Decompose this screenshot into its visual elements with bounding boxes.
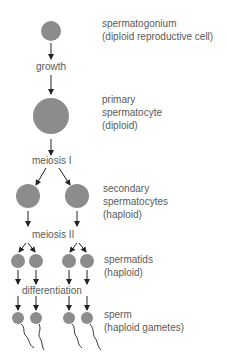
stage-primary-spermatocyte-label: primary spermatocyte (diploid) (102, 93, 162, 132)
arrow-meiosis1-right (59, 168, 70, 185)
arrow-meiosis1-left (36, 168, 46, 185)
process-meiosis-ii: meiosis II (32, 229, 74, 241)
spermatid-cell-4 (80, 254, 94, 268)
stage-name: secondary (103, 182, 168, 195)
sperm-cell-2 (30, 312, 44, 350)
spermatogonium-cell (41, 21, 61, 41)
process-growth: growth (36, 61, 66, 73)
stage-name: spermatogonium (102, 17, 213, 30)
process-meiosis-i: meiosis I (32, 155, 71, 167)
arrow-meiosis2-lr (28, 243, 35, 252)
stage-name: spermatids (104, 253, 153, 266)
primary-spermatocyte-cell (33, 98, 69, 134)
stage-ploidy: (diploid) (102, 119, 162, 132)
arrow-meiosis2-ll (19, 243, 26, 252)
stage-ploidy: (haploid gametes) (104, 321, 184, 334)
stage-ploidy: (haploid) (103, 208, 168, 221)
spermatid-cell-3 (62, 254, 76, 268)
stage-secondary-spermatocytes-label: secondary spermatocytes (haploid) (103, 182, 168, 221)
secondary-spermatocyte-cell-right (65, 184, 89, 208)
spermatid-cell-2 (29, 254, 43, 268)
process-differentiation: differentiation (22, 285, 82, 297)
stage-ploidy: (haploid) (104, 266, 153, 279)
stage-name: sperm (104, 308, 184, 321)
sperm-cell-3 (63, 312, 82, 348)
arrow-meiosis2-rl (70, 243, 77, 252)
spermatid-cell-1 (11, 254, 25, 268)
stage-sperm-label: sperm (haploid gametes) (104, 308, 184, 334)
sperm-cell-4 (81, 312, 101, 350)
stage-spermatids-label: spermatids (haploid) (104, 253, 153, 279)
stage-spermatogonium-label: spermatogonium (diploid reproductive cel… (102, 17, 213, 43)
stage-name-2: spermatocyte (102, 106, 162, 119)
arrow-meiosis2-rr (79, 243, 86, 252)
stage-name-2: spermatocytes (103, 195, 168, 208)
stage-name: primary (102, 93, 162, 106)
stage-ploidy: (diploid reproductive cell) (102, 30, 213, 43)
secondary-spermatocyte-cell-left (16, 184, 40, 208)
